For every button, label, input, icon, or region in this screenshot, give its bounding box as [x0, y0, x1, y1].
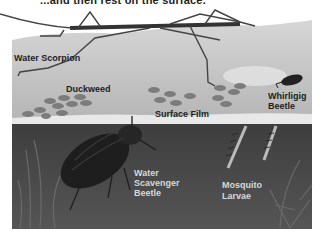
label-duckweed: Duckweed — [66, 84, 111, 94]
label-water-scorpion: Water Scorpion — [14, 53, 80, 63]
label-whirligig-beetle-line1: Whirligig — [268, 91, 307, 101]
label-scavenger-line3: Beetle — [134, 188, 161, 198]
label-scavenger-line2: Scavenger — [134, 178, 180, 188]
label-scavenger-line1: Water — [134, 168, 159, 178]
label-surface-film: Surface Film — [155, 109, 209, 119]
label-mosquito-line1: Mosquito — [222, 180, 262, 190]
label-mosquito-line2: Larvae — [222, 191, 251, 201]
label-whirligig-beetle-line2: Beetle — [268, 101, 295, 111]
underwater-layer — [12, 124, 312, 229]
